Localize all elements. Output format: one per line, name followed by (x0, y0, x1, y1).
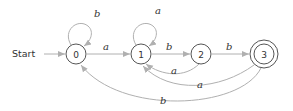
start-label: Start (12, 48, 35, 59)
state-1-label: 1 (138, 50, 144, 60)
state-1: 1 (131, 44, 151, 64)
state-0-label: 0 (73, 50, 79, 60)
state-2: 2 (191, 44, 211, 64)
state-diagram: Start b a a b b a a b 0 1 2 3 (0, 0, 293, 111)
edge-label-3-0: b (160, 95, 166, 106)
edge-label-1-1: a (155, 5, 161, 16)
edge-label-3-1: a (197, 79, 203, 90)
edge-0-0 (68, 23, 91, 46)
edge-label-2-1: a (171, 65, 177, 76)
state-3-label: 3 (261, 50, 267, 60)
edge-label-0-1: a (103, 41, 109, 52)
edge-1-1 (133, 23, 156, 46)
edge-label-2-3: b (226, 41, 232, 52)
state-3-accepting: 3 (250, 40, 278, 68)
edge-label-1-2: b (166, 41, 172, 52)
state-0: 0 (66, 44, 86, 64)
edge-label-0-0: b (94, 8, 100, 19)
state-2-label: 2 (198, 50, 204, 60)
